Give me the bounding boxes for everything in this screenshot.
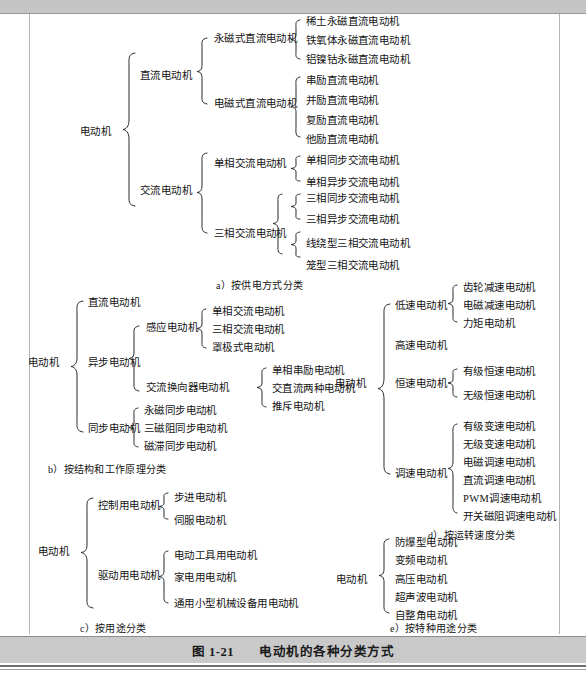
brace-a-pm-dc	[290, 19, 301, 60]
brace-a-3ph-lower	[290, 231, 301, 258]
page-top-band	[0, 0, 586, 14]
brace-a-dc	[196, 37, 208, 105]
node-c-control-child-0: 步进电动机	[174, 492, 226, 503]
page-left-rule	[29, 14, 30, 634]
node-e-child-3: 超声波电动机	[395, 592, 457, 603]
brace-c-drive	[158, 550, 169, 604]
brace-b-root	[70, 300, 84, 433]
node-c-drive-child-1: 家电用电动机	[174, 572, 236, 583]
node-d-var: 调速电动机	[395, 468, 447, 479]
brace-b-sync	[128, 407, 139, 448]
node-b-com-child-2: 推斥电动机	[272, 401, 324, 412]
node-b-sync-child-2: 磁滞同步电动机	[144, 441, 217, 452]
node-d-const: 恒速电动机	[395, 378, 447, 389]
node-a-pm-dc: 永磁式直流电动机	[214, 33, 297, 44]
node-a-em-child-0: 串励直流电动机	[306, 75, 379, 86]
node-c-drive-child-0: 电动工具用电动机	[174, 550, 257, 561]
node-d-var-child-5: 开关磁阻调速电动机	[463, 511, 557, 522]
page-bottom-rule-thin	[0, 669, 586, 670]
node-a-3ph-child-1: 三相异步交流电动机	[306, 214, 400, 225]
node-b-dc: 直流电动机	[88, 297, 140, 308]
node-b-sync-child-0: 永磁同步电动机	[144, 405, 217, 416]
brace-a-em-dc	[290, 76, 301, 138]
node-e-root: 电动机	[336, 574, 367, 585]
node-a-em-dc: 电磁式直流电动机	[214, 98, 297, 109]
node-c-control: 控制用电动机	[98, 500, 160, 511]
node-a-pm-child-2: 铝镍钴永磁直流电动机	[306, 54, 410, 65]
node-d-var-child-2: 电磁调速电动机	[463, 457, 536, 468]
node-a-root: 电动机	[80, 126, 111, 137]
brace-b-induction	[196, 308, 207, 349]
node-c-drive-child-2: 通用小型机械设备用电动机	[174, 598, 299, 609]
figure-page: 电动机 直流电动机 交流电动机 永磁式直流电动机 电磁式直流电动机 稀土永磁直流…	[0, 0, 586, 673]
brace-b-async	[128, 325, 140, 392]
node-d-var-child-1: 无级变速电动机	[463, 439, 536, 450]
brace-a-root	[122, 52, 136, 207]
node-d-low-child-0: 齿轮减速电动机	[463, 282, 536, 293]
node-b-ind-child-1: 三相交流电动机	[212, 324, 285, 335]
figure-caption-bar: 图 1-21 电动机的各种分类方式	[0, 636, 586, 663]
node-d-const-child-0: 有级恒速电动机	[463, 366, 536, 377]
brace-a-3ph-upper	[290, 193, 301, 220]
brace-c-root	[80, 497, 94, 609]
node-b-sync-child-1: 三磁阻同步电动机	[144, 423, 227, 434]
node-b-root: 电动机	[28, 357, 59, 368]
node-b-ind-child-0: 单相交流电动机	[212, 306, 285, 317]
node-d-high: 高速电动机	[395, 340, 447, 351]
node-c-root: 电动机	[38, 546, 69, 557]
node-a-3ph-child-0: 三相同步交流电动机	[306, 193, 400, 204]
node-d-root: 电动机	[335, 378, 366, 389]
node-a-1ph-child-0: 单相同步交流电动机	[306, 155, 400, 166]
section-c-label: c）按用途分类	[80, 620, 147, 635]
node-a-em-child-1: 并励直流电动机	[306, 95, 379, 106]
node-d-low: 低速电动机	[395, 300, 447, 311]
node-d-low-child-2: 力矩电动机	[463, 318, 515, 329]
brace-b-commutator	[256, 367, 267, 408]
node-a-3ph-child-2: 线绕型三相交流电动机	[306, 238, 410, 249]
figure-caption-title: 电动机的各种分类方式	[259, 645, 394, 659]
brace-d-low	[447, 284, 458, 323]
brace-c-control	[158, 492, 169, 520]
node-d-const-child-1: 无级恒速电动机	[463, 390, 536, 401]
node-e-child-0: 防爆型电动机	[395, 537, 457, 548]
node-a-em-child-2: 复励直流电动机	[306, 115, 379, 126]
node-b-commutator: 交流换向器电动机	[146, 382, 229, 393]
node-b-ind-child-2: 罩极式电动机	[212, 342, 274, 353]
brace-a-ac	[196, 152, 208, 234]
node-e-child-1: 变频电动机	[395, 555, 447, 566]
node-c-drive: 驱动用电动机	[98, 570, 160, 581]
brace-e-root	[378, 538, 390, 614]
node-d-var-child-3: 直流调速电动机	[463, 475, 536, 486]
node-a-pm-child-1: 铁氧体永磁直流电动机	[306, 35, 410, 46]
node-a-dc: 直流电动机	[140, 70, 192, 81]
brace-a-3ph	[272, 193, 283, 255]
brace-d-const	[447, 368, 458, 398]
brace-d-var	[447, 423, 458, 515]
node-a-1ph-ac: 单相交流电动机	[214, 158, 287, 169]
node-a-3ph-child-3: 笼型三相交流电动机	[306, 260, 400, 271]
node-b-com-child-0: 单相串励电动机	[272, 365, 345, 376]
node-d-var-child-4: PWM调速电动机	[463, 493, 541, 504]
figure-caption-number: 图 1-21	[192, 645, 234, 659]
node-c-control-child-1: 伺服电动机	[174, 515, 226, 526]
node-a-em-child-3: 他励直流电动机	[306, 134, 379, 145]
node-e-child-2: 高压电动机	[395, 574, 447, 585]
section-a-label: a）按供电方式分类	[216, 277, 303, 292]
page-bottom-rule-thick	[0, 665, 586, 667]
node-a-ac: 交流电动机	[140, 185, 192, 196]
node-d-var-child-0: 有级变速电动机	[463, 421, 536, 432]
node-b-induction: 感应电动机	[146, 322, 198, 333]
page-right-rule	[559, 14, 560, 634]
brace-a-1ph	[290, 155, 301, 182]
node-a-pm-child-0: 稀土永磁直流电动机	[306, 16, 400, 27]
figure-caption: 图 1-21 电动机的各种分类方式	[0, 641, 586, 660]
brace-d-root	[377, 303, 391, 475]
node-a-1ph-child-1: 单相异步交流电动机	[306, 177, 400, 188]
section-e-label: e）按特种用途分类	[390, 620, 477, 635]
node-d-low-child-1: 电磁减速电动机	[463, 300, 536, 311]
section-b-label: b）按结构和工作原理分类	[48, 461, 167, 476]
